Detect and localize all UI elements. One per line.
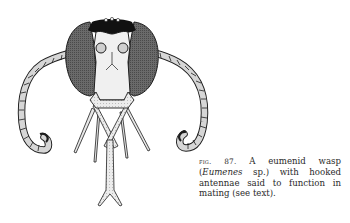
face xyxy=(94,31,130,100)
ocellus xyxy=(104,18,107,21)
right-antennal-socket xyxy=(118,43,128,53)
figure-caption: fig. 87. A eumenid wasp (Eumenes sp.) wi… xyxy=(199,156,341,199)
ocellus xyxy=(110,17,113,20)
mouthparts xyxy=(74,104,150,206)
ocellus xyxy=(116,18,119,21)
vertex xyxy=(88,19,136,34)
figure-number: fig. 87. xyxy=(199,157,237,166)
left-antennal-socket xyxy=(96,43,106,53)
genus-name: Eumenes xyxy=(202,167,242,177)
